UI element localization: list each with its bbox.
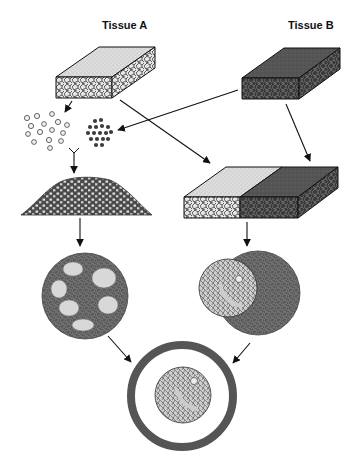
final-structure bbox=[131, 345, 233, 447]
arrow-a-to-recombined bbox=[120, 100, 210, 163]
dissociated-cells-b bbox=[86, 118, 113, 147]
arrow-b-to-recombined bbox=[286, 104, 310, 161]
tissue-diagram bbox=[0, 0, 357, 462]
mixed-aggregate bbox=[21, 177, 152, 215]
tissue-b-label: Tissue B bbox=[288, 19, 334, 31]
sorted-sphere bbox=[42, 253, 128, 339]
recombined-block bbox=[184, 167, 338, 218]
tissue-b-block bbox=[242, 48, 340, 99]
arrow-organized-to-final bbox=[233, 343, 250, 363]
tissue-a-block bbox=[56, 47, 155, 98]
arrow-b-to-dissociated bbox=[118, 90, 238, 130]
organized-sphere bbox=[199, 251, 300, 335]
arrow-a-to-dissociated bbox=[65, 101, 72, 112]
arrow-sorted-to-final bbox=[108, 336, 131, 362]
merge-connector bbox=[69, 148, 79, 153]
tissue-a-label: Tissue A bbox=[102, 19, 147, 31]
dissociated-cells-a bbox=[24, 112, 69, 151]
